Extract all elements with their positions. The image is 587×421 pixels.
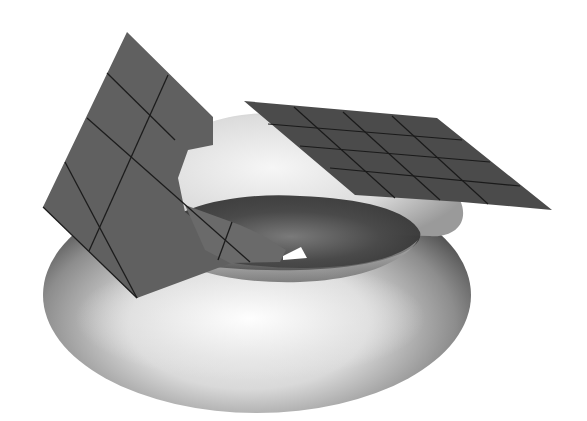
torus-illustration (0, 0, 587, 421)
figure: Torus with two tangent planes (0, 0, 587, 421)
